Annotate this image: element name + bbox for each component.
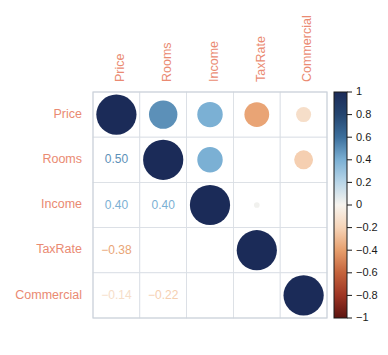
matrix-cell — [140, 228, 187, 273]
correlation-circle — [294, 150, 313, 169]
colorbar-tick-label: 1 — [356, 85, 362, 97]
colorbar-tick-label: 0 — [356, 198, 362, 210]
colorbar-tick-label: −1 — [356, 311, 369, 323]
matrix-cell — [233, 273, 280, 318]
correlation-matrix-chart: 0.500.400.40−0.38−0.14−0.22 PriceRoomsIn… — [0, 0, 388, 355]
correlation-circle — [190, 185, 230, 225]
correlation-value: −0.22 — [148, 288, 179, 302]
correlation-circle — [244, 102, 269, 127]
row-label-income: Income — [41, 197, 82, 211]
row-label-price: Price — [54, 107, 83, 121]
colorbar-gradient — [334, 92, 347, 318]
matrix-cell — [187, 228, 234, 273]
correlation-circle — [284, 275, 324, 315]
colorbar-tick-label: −0.6 — [356, 266, 378, 278]
correlation-circle — [96, 95, 136, 135]
correlation-value: −0.14 — [101, 288, 132, 302]
correlation-value: 0.40 — [152, 198, 176, 212]
correlation-circle — [197, 147, 222, 172]
correlation-value: −0.38 — [101, 243, 132, 257]
matrix-cell — [280, 228, 327, 273]
column-label-taxrate: TaxRate — [254, 36, 268, 82]
column-label-income: Income — [207, 41, 221, 82]
colorbar-tick-label: 0.8 — [356, 108, 371, 120]
column-label-rooms: Rooms — [160, 42, 174, 82]
correlation-circle — [197, 102, 222, 127]
correlation-value: 0.40 — [105, 198, 129, 212]
colorbar-tick-label: 0.6 — [356, 131, 371, 143]
colorbar-tick-label: 0.4 — [356, 153, 371, 165]
matrix-cell — [233, 137, 280, 182]
colorbar-tick-label: 0.2 — [356, 176, 371, 188]
column-label-price: Price — [113, 53, 127, 82]
matrix-cell — [280, 182, 327, 227]
colorbar-tick-label: −0.8 — [356, 289, 378, 301]
row-label-commercial: Commercial — [15, 288, 82, 302]
row-label-rooms: Rooms — [42, 152, 82, 166]
colorbar-tick-label: −0.4 — [356, 244, 378, 256]
correlation-value: 0.50 — [105, 152, 129, 166]
column-label-commercial: Commercial — [300, 15, 314, 82]
correlation-circle — [237, 230, 277, 270]
row-label-taxrate: TaxRate — [36, 242, 82, 256]
correlation-circle — [143, 140, 183, 180]
colorbar-tick-label: −0.2 — [356, 221, 378, 233]
matrix-cell — [187, 273, 234, 318]
correlation-circle — [149, 100, 177, 128]
correlation-circle — [296, 107, 311, 122]
correlation-circle — [254, 202, 260, 208]
